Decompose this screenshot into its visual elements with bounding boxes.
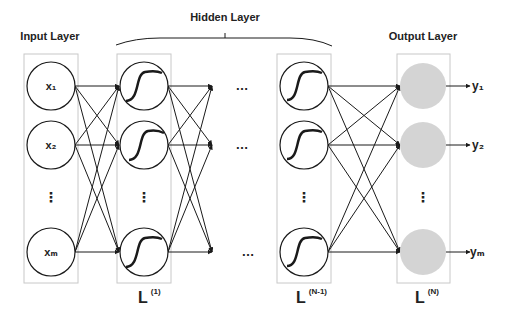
layer-label-ln1-sup: (N-1)	[309, 287, 328, 296]
ln1-vertical-ellipsis: ⋮	[297, 189, 311, 205]
layer-label-l1: L(1)	[138, 287, 161, 306]
ellipsis-row-m: …	[242, 244, 255, 259]
hidden-layer-brace	[116, 38, 332, 46]
connections-ln1-to-output	[328, 86, 400, 252]
input-label-1: x₁	[46, 80, 57, 92]
ellipsis-row-1: …	[236, 78, 249, 93]
layer-label-ln-base: L	[415, 289, 425, 306]
neural-network-diagram: Input Layer Hidden Layer Output Layer	[0, 0, 505, 324]
hidden-layer-title: Hidden Layer	[190, 11, 260, 23]
layer-label-ln1: L(N-1)	[296, 287, 327, 306]
layer-label-ln1-base: L	[296, 289, 306, 306]
hidden-ln1-node-2	[280, 121, 328, 169]
output-layer-title: Output Layer	[389, 30, 458, 42]
hidden-ln1-node-1	[280, 62, 328, 110]
hidden-l1-node-m	[120, 228, 168, 276]
hidden-l1-node-1	[120, 62, 168, 110]
output-vertical-ellipsis: ⋮	[416, 189, 430, 205]
output-label-2: y₂	[472, 138, 484, 152]
input-label-m: xₘ	[44, 246, 57, 258]
input-label-2: x₂	[45, 139, 56, 151]
l1-vertical-ellipsis: ⋮	[137, 189, 151, 205]
input-node-2: x₂	[27, 121, 75, 169]
output-label-m: yₘ	[470, 245, 485, 259]
layer-label-ln: L(N)	[415, 287, 439, 306]
hidden-l1-node-2	[120, 121, 168, 169]
input-layer-title: Input Layer	[20, 30, 80, 42]
output-label-1: y₁	[472, 79, 484, 93]
output-node-m	[400, 229, 446, 275]
layer-label-ln-sup: (N)	[428, 287, 439, 296]
layer-label-l1-sup: (1)	[151, 287, 161, 296]
layer-label-l1-base: L	[138, 289, 148, 306]
input-node-m: xₘ	[27, 228, 75, 276]
connections-input-to-l1	[75, 86, 119, 252]
input-vertical-ellipsis: ⋮	[44, 189, 58, 205]
output-node-2	[400, 122, 446, 168]
hidden-ln1-node-m	[280, 228, 328, 276]
ellipsis-row-2: …	[236, 137, 249, 152]
input-node-1: x₁	[27, 62, 75, 110]
output-node-1	[400, 63, 446, 109]
connections-l1-to-next	[168, 86, 212, 252]
